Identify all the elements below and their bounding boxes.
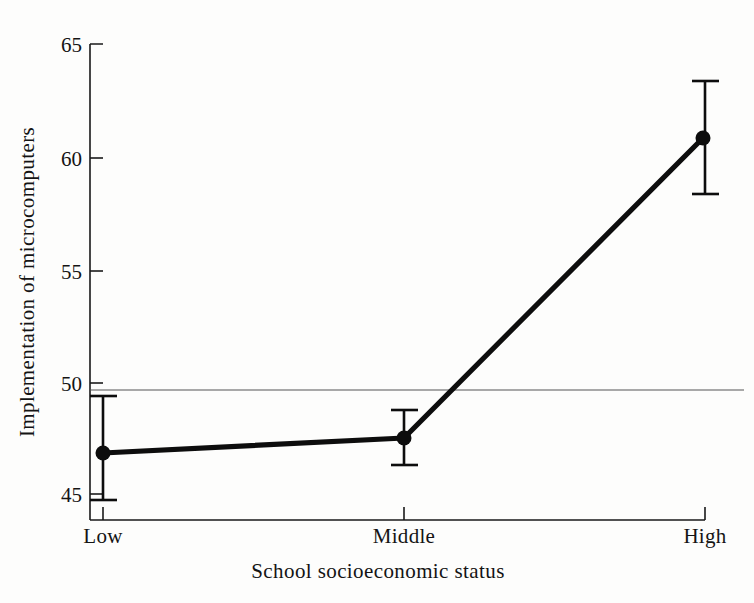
y-tick-label-50: 50 bbox=[61, 372, 82, 396]
series-line-implementation bbox=[103, 138, 703, 453]
x-axis-title: School socioeconomic status bbox=[251, 559, 504, 583]
y-tick-label-60: 60 bbox=[61, 147, 82, 171]
x-axis-spine bbox=[90, 507, 705, 520]
y-axis-title: Implementation of microcomputers bbox=[15, 127, 39, 437]
chart-figure: 65 60 55 50 45 Low Middle High School so… bbox=[0, 0, 754, 603]
x-tick-label-low: Low bbox=[83, 524, 123, 548]
line-chart-canvas: 65 60 55 50 45 Low Middle High School so… bbox=[0, 0, 754, 603]
x-tick-label-high: High bbox=[683, 524, 726, 548]
data-point-middle bbox=[397, 431, 412, 446]
y-tick-label-55: 55 bbox=[61, 260, 82, 284]
x-tick-label-middle: Middle bbox=[373, 524, 435, 548]
data-point-low bbox=[96, 446, 111, 461]
y-tick-label-65: 65 bbox=[61, 33, 82, 57]
data-point-high bbox=[696, 131, 711, 146]
y-tick-label-45: 45 bbox=[61, 483, 82, 507]
